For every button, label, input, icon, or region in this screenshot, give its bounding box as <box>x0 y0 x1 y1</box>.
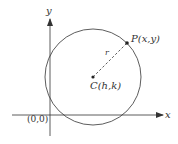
center-label: C(h,k) <box>90 80 121 91</box>
point-p <box>125 41 129 45</box>
x-axis-label: x <box>165 109 171 120</box>
circle-equation-diagram: y x (0,0) P(x,y) C(h,k) r <box>0 0 178 144</box>
radius-label: r <box>105 48 110 57</box>
origin-label: (0,0) <box>27 114 48 124</box>
point-p-label: P(x,y) <box>130 33 160 44</box>
center-point <box>91 75 94 78</box>
radius-line <box>93 43 127 77</box>
y-axis-label: y <box>45 5 52 16</box>
